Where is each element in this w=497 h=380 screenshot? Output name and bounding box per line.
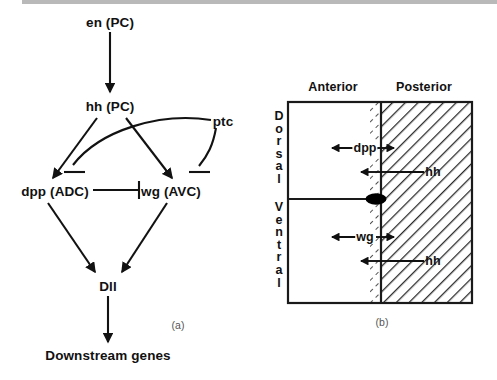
node-en: en (PC) (86, 15, 134, 30)
figure-container: en (PC) hh (PC) ptc dpp (ADC) wg (AVC) D… (0, 0, 497, 380)
node-ptc: ptc (213, 114, 234, 129)
posterior-compartment-fill (381, 102, 472, 303)
node-wg: wg (AVC) (141, 184, 201, 199)
panel-b-caption: (b) (375, 316, 388, 328)
edge-wg-to-dll (122, 203, 167, 272)
panel-a-caption: (a) (171, 319, 184, 331)
edge-ptc-to-wg (199, 128, 216, 166)
signal-label-hh-ventral: hh (425, 254, 440, 268)
node-downstream-genes: Downstream genes (45, 348, 170, 363)
wing-pouch-marker (366, 193, 387, 205)
node-dll: Dll (99, 279, 117, 294)
node-dpp: dpp (ADC) (21, 184, 89, 199)
signal-label-dpp: dpp (352, 141, 377, 155)
signal-label-hh-dorsal: hh (425, 165, 440, 179)
signal-label-wg: wg (355, 230, 375, 244)
label-posterior: Posterior (396, 80, 452, 94)
panel-b-diagram (277, 90, 497, 330)
label-ventral: Ventral (272, 201, 286, 289)
label-anterior: Anterior (308, 80, 357, 94)
edge-dpp-to-dll (48, 203, 95, 272)
edge-ptc-to-dpp (73, 118, 211, 165)
label-dorsal: Dorsal (272, 110, 286, 186)
node-hh: hh (PC) (86, 99, 135, 114)
